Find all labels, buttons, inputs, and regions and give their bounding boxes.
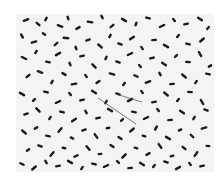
bacterium-cell [145,151,151,156]
bacterium-cell [105,126,110,129]
bacterium-cell [196,16,203,22]
bacterium-cell [117,135,123,140]
bacterium-cell [160,61,167,67]
bacterium-cell [19,33,24,39]
bacterium-cell [49,151,55,158]
bacterium-cell [97,43,104,49]
bacterium-cell [79,98,85,102]
bacterium-cell [22,18,29,23]
bacterial-filament [98,98,136,124]
bacterium-cell [70,82,77,86]
bacterium-cell [162,43,169,49]
bacterium-cell [44,16,49,22]
bacterium-cell [128,35,135,41]
bacterium-cell [153,125,158,131]
bacterium-cell [56,24,63,29]
bacterium-cell [91,63,98,70]
bacterium-cell [169,83,175,86]
bacterium-cell [140,45,145,50]
bacterium-cell [199,37,206,43]
bacterium-cell [48,115,53,120]
bacterium-cell [177,128,183,132]
bacterium-cell [31,97,36,102]
bacterium-cell [203,108,209,112]
bacterium-cell [50,79,55,85]
bacterium-cell [134,21,138,27]
bacterium-cell [34,49,39,54]
bacterium-cell [138,161,145,167]
bacterium-cell [181,145,187,151]
bacterium-cell [205,25,210,30]
bacterium-cell [36,70,43,75]
bacterium-cell [187,91,193,94]
bacterium-cell [45,134,51,137]
bacterium-cell [35,107,42,114]
bacterium-cell [55,164,61,167]
bacterium-cell [74,45,78,51]
bacterium-cell [189,133,195,139]
bacterium-cell [129,127,136,133]
bacterium-cell [66,15,70,21]
bacteria-micrograph [16,14,214,172]
bacterium-cell [133,146,138,150]
bacterium-cell [121,81,126,86]
bacterium-cell [185,61,191,64]
bacterium-cell [200,126,207,130]
bacterium-cell [97,153,102,156]
bacterium-cell [73,154,79,159]
bacterium-cell [79,54,85,57]
bacterium-cell [127,167,133,170]
bacterium-cell [185,42,191,46]
bacterium-cell [188,161,193,166]
bacterium-cell [126,51,133,56]
bacterium-cell [197,50,203,57]
bacterium-cell [66,159,73,165]
bacterium-cell [85,38,91,42]
bacterium-cell [158,23,165,28]
bacteria-cells [16,14,214,172]
bacterium-cell [173,53,178,58]
bacterium-cell [37,144,43,148]
bacterium-cell [35,21,41,27]
bacterium-cell [120,17,127,23]
bacterium-cell [171,17,176,22]
bacterium-cell [137,63,142,68]
bacterium-cell [164,135,171,141]
bacterium-cell [115,60,121,64]
bacterium-cell [95,79,101,84]
bacterium-cell [44,159,49,165]
bacterium-cell [45,60,51,63]
bacterium-cell [93,132,99,139]
bacterium-cell [104,55,108,61]
bacterium-cell [133,74,139,79]
bacterium-cell [199,164,205,168]
bacterium-cell [157,142,163,149]
bacterium-cell [174,165,181,171]
bacterium-cell [70,117,77,123]
bacterium-cell [207,64,213,69]
bacterium-cell [119,117,124,122]
bacterium-cell [163,160,169,164]
bacterium-cell [108,72,115,76]
bacterium-cell [175,33,180,38]
bacterium-cell [102,163,109,168]
bacterium-cell [53,41,59,47]
bacterium-cell [117,42,123,46]
bacterium-cell [163,91,170,97]
bacterium-cell [95,116,101,120]
bacterium-cell [109,143,115,148]
bacterium-cell [100,14,105,20]
bacterium-cell [25,148,30,153]
bacterium-cell [178,109,185,115]
bacterium-cell [192,115,197,121]
bacterium-cell [142,115,149,120]
bacterium-cell [175,97,180,102]
bacterium-cell [121,153,128,160]
bacterium-cell [194,79,199,84]
bacterium-cell [57,127,63,134]
bacterium-cell [81,128,87,132]
bacterium-cell [183,22,189,25]
bacterium-cell [131,110,137,113]
bacterium-cell [91,162,97,166]
bacterium-cell [61,146,66,149]
